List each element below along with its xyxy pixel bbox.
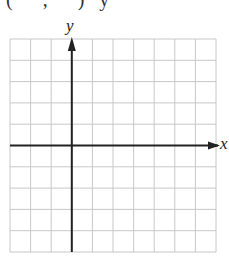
x-axis-label: x [220,134,228,154]
x-axis-arrow-icon [208,142,220,150]
y-axis-label: y [66,16,74,36]
coordinate-grid [0,0,229,258]
